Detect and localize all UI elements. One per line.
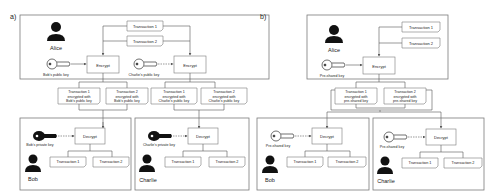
encrypt-block: Encrypt [87, 56, 119, 73]
encrypt-block: Encrypt [174, 56, 206, 73]
alice-avatar-icon [325, 25, 343, 43]
label: Decrypt [83, 134, 98, 139]
encrypted-transaction: Transaction 2 encrypted with Charlie's p… [201, 88, 247, 104]
decrypted-transaction: Transaction 1 [50, 157, 86, 167]
sender-name: Alice [328, 47, 340, 53]
label: Decrypt [320, 134, 335, 139]
label: Bob's public key [114, 99, 140, 103]
charlie-avatar-icon [377, 157, 393, 175]
key-label: Charlie's public key [129, 73, 160, 77]
encrypted-transaction: Transaction 1 encrypted with Bob's publi… [58, 88, 100, 104]
encryption-diagram: a) Alice Transaction 1 Transaction 2 Enc… [0, 0, 503, 196]
label: encrypted with [212, 95, 235, 99]
public-key-icon [47, 59, 70, 69]
label: Bob's public key [66, 99, 92, 103]
label: Transaction 1 [133, 24, 158, 29]
label: Encrypt [372, 64, 386, 69]
label: encrypted with [115, 95, 138, 99]
label: pre-shared key [344, 99, 368, 103]
label: Charlie's public key [209, 99, 240, 103]
label: Transaction 2 [394, 90, 416, 94]
transaction-doc: Transaction 2 [402, 38, 440, 48]
label: Transaction 1 [409, 161, 432, 165]
label: encrypted with [67, 95, 90, 99]
label: Transaction 2 [216, 160, 239, 164]
key-label: Pre-shared key [320, 74, 345, 78]
decrypted-transaction: Transaction 2 [328, 157, 366, 167]
label: Transaction 1 [409, 25, 434, 30]
pre-shared-key-icon [271, 131, 294, 141]
panel-label: b) [260, 13, 266, 21]
charlie-avatar-icon [139, 155, 155, 173]
receiver-name: Bob [265, 177, 275, 183]
pre-shared-key-icon [322, 60, 345, 70]
transaction-doc: Transaction 1 [127, 21, 163, 31]
decrypt-block: Decrypt [75, 128, 105, 144]
encrypt-block: Encrypt [363, 57, 395, 74]
label: Transaction 1 [172, 160, 195, 164]
sender-name: Alice [50, 45, 62, 51]
key-label: Bob's private key [26, 143, 53, 147]
receiver-name: Bob [28, 176, 38, 182]
panel-b: b) Alice Transaction 1 Transaction 2 Enc… [257, 13, 484, 190]
label: Transaction 2 [116, 90, 138, 94]
decrypt-block: Decrypt [312, 128, 342, 144]
key-label: Charlie's private key [143, 143, 175, 147]
label: encrypted with [393, 95, 416, 99]
decrypted-transaction: Transaction 1 [402, 158, 438, 168]
decrypted-transaction: Transaction 2 [93, 157, 129, 167]
private-key-icon [33, 131, 57, 141]
label: encrypted with [162, 95, 185, 99]
label: Transaction 2 [452, 161, 475, 165]
label: Transaction 1 [345, 90, 367, 94]
label: Transaction 2 [336, 160, 359, 164]
encrypted-transaction: Transaction 2 encrypted with Bob's publi… [106, 88, 148, 104]
label: Charlie's public key [159, 99, 190, 103]
panel-a: a) Alice Transaction 1 Transaction 2 Enc… [10, 13, 269, 190]
label: encrypted with [344, 95, 367, 99]
label: Decrypt [434, 135, 449, 140]
alice-avatar-icon [47, 22, 65, 41]
label: Transaction 2 [133, 39, 158, 44]
label: pre-shared key [393, 99, 417, 103]
transaction-doc: Transaction 1 [402, 22, 440, 32]
decrypted-transaction: Transaction 2 [444, 158, 482, 168]
bob-avatar-icon [25, 155, 41, 173]
key-label: Bob's public key [43, 73, 69, 77]
decrypt-block: Decrypt [188, 128, 218, 144]
decrypted-transaction: Transaction 1 [287, 157, 323, 167]
receiver-name: Charlie [139, 177, 156, 183]
label: Transaction 2 [100, 160, 123, 164]
label: Transaction 1 [163, 90, 185, 94]
bob-avatar-icon [262, 156, 278, 174]
encrypted-transaction: Transaction 2 encrypted with pre-shared … [384, 88, 426, 104]
label: Encrypt [96, 63, 110, 68]
encrypted-transaction: Transaction 1 encrypted with pre-shared … [335, 88, 377, 104]
label: Transaction 1 [57, 160, 80, 164]
label: Decrypt [196, 134, 211, 139]
label: Transaction 1 [294, 160, 317, 164]
public-key-icon [134, 59, 157, 69]
encrypted-transaction: Transaction 1 encrypted with Charlie's p… [151, 88, 197, 104]
pre-shared-key-icon [384, 132, 407, 142]
label: Transaction 2 [213, 90, 235, 94]
decrypted-transaction: Transaction 2 [209, 157, 245, 167]
panel-label: a) [10, 13, 16, 21]
receiver-name: Charlie [377, 178, 394, 184]
key-label: Pre-shared key [380, 145, 405, 149]
transaction-doc: Transaction 2 [127, 36, 163, 46]
label: Transaction 1 [68, 90, 90, 94]
decrypted-transaction: Transaction 1 [165, 157, 201, 167]
private-key-icon [148, 131, 172, 141]
key-label: Pre-shared key [266, 144, 291, 148]
label: Transaction 2 [409, 41, 434, 46]
decrypt-block: Decrypt [426, 129, 456, 145]
label: Encrypt [183, 63, 197, 68]
